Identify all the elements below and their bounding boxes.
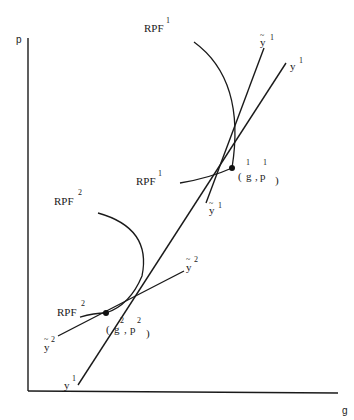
- x-axis: [28, 391, 338, 393]
- svg-text:~: ~: [260, 31, 265, 40]
- rpf1-mid-label: RPF 1: [136, 169, 162, 187]
- rpf2-low-label: RPF 2: [57, 299, 85, 318]
- svg-text:): ): [146, 327, 150, 340]
- svg-text:1: 1: [218, 201, 222, 210]
- x-axis-label: g: [342, 405, 348, 416]
- svg-text:y: y: [290, 60, 296, 72]
- ytilde1-mid-label: y ~ 1: [209, 199, 222, 216]
- svg-text:p: p: [260, 170, 266, 182]
- svg-text:2: 2: [51, 335, 55, 344]
- point-1-label: ( g 1 , p 1 ): [238, 158, 279, 187]
- svg-text:g: g: [246, 170, 252, 182]
- rpf1-upper-curve: [194, 42, 235, 168]
- rpf2-upper-curve: [98, 213, 144, 313]
- y1-line: [78, 63, 286, 385]
- rpf2-lower-curve: [80, 313, 106, 317]
- svg-text:~: ~: [186, 255, 191, 264]
- svg-text:y: y: [64, 379, 70, 391]
- svg-text:RPF: RPF: [57, 306, 77, 318]
- svg-text:RPF: RPF: [144, 22, 164, 34]
- rpf2-top-label: RPF 2: [54, 188, 82, 207]
- svg-text:,: ,: [255, 170, 258, 182]
- svg-text:~: ~: [44, 335, 49, 344]
- ytilde2-line: [58, 271, 184, 336]
- svg-text:1: 1: [166, 16, 170, 25]
- svg-text:~: ~: [209, 199, 214, 208]
- rpf1-lower-curve: [180, 168, 232, 183]
- ytilde1-top-label: y ~ 1: [260, 31, 274, 48]
- svg-text:(: (: [106, 323, 110, 336]
- point-2-marker: [103, 310, 109, 316]
- svg-text:(: (: [238, 170, 242, 183]
- svg-text:1: 1: [158, 169, 162, 178]
- svg-text:1: 1: [263, 158, 267, 167]
- ytilde2-left-label: y ~ 2: [44, 335, 55, 353]
- svg-text:2: 2: [137, 316, 141, 325]
- y-axis-label: p: [16, 34, 22, 45]
- ytilde2-right-label: y ~ 2: [186, 255, 198, 273]
- diagram-canvas: p g RPF 1 y ~ 1 y 1 ( g 1 , p 1 ) RPF: [0, 0, 354, 420]
- svg-text:RPF: RPF: [54, 195, 74, 207]
- svg-text:1: 1: [270, 33, 274, 42]
- svg-text:2: 2: [194, 255, 198, 264]
- y1-right-label: y 1: [290, 56, 303, 72]
- point-1-marker: [229, 165, 235, 171]
- svg-text:1: 1: [72, 374, 76, 383]
- svg-text:): ): [275, 174, 279, 187]
- svg-text:RPF: RPF: [136, 175, 156, 187]
- svg-text:,: ,: [124, 323, 127, 335]
- y1-bottom-label: y 1: [64, 374, 76, 391]
- point-2-label: ( g 2 , p 2 ): [106, 316, 150, 340]
- svg-text:2: 2: [81, 299, 85, 308]
- svg-text:1: 1: [246, 158, 250, 167]
- rpf1-top-label: RPF 1: [144, 16, 170, 34]
- svg-text:p: p: [130, 323, 136, 335]
- diagram-svg: p g RPF 1 y ~ 1 y 1 ( g 1 , p 1 ) RPF: [0, 0, 354, 420]
- svg-text:1: 1: [299, 56, 303, 65]
- svg-text:2: 2: [78, 188, 82, 197]
